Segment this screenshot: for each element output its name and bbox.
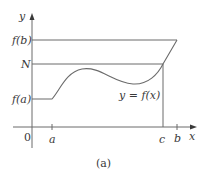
x-axis-label: x: [189, 130, 196, 143]
curve-label: y = f(x): [118, 89, 160, 102]
figure-caption: (a): [96, 157, 111, 170]
origin-label: 0: [24, 131, 31, 144]
y-axis-arrow-icon: [30, 13, 35, 20]
figure-canvas: y x 0 f(b) N f(a) a c b y = f(x) (a): [0, 0, 206, 172]
x-tick-a: a: [49, 133, 56, 146]
y-tick-fb: f(b): [11, 34, 32, 47]
y-axis-label: y: [18, 10, 26, 23]
y-tick-n: N: [20, 58, 31, 71]
x-axis-arrow-icon: [190, 125, 197, 130]
x-tick-c: c: [159, 133, 165, 146]
y-tick-fa: f(a): [11, 93, 31, 106]
x-tick-b: b: [174, 132, 181, 145]
